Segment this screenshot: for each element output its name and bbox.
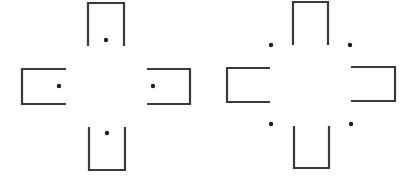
dot-top-left	[269, 43, 273, 47]
dot-right	[151, 84, 155, 88]
bottom-u	[294, 126, 329, 168]
dot-top-right	[348, 43, 352, 47]
dot-bottom-left	[269, 122, 273, 126]
dot-top	[104, 38, 108, 42]
dot-bottom-right	[349, 122, 353, 126]
diagram-canvas	[0, 0, 410, 183]
right-figure	[227, 2, 395, 168]
right-bracket	[351, 67, 395, 101]
left-figure	[22, 3, 190, 170]
left-bracket	[227, 68, 270, 102]
dot-bottom	[105, 131, 109, 135]
top-u	[293, 2, 328, 45]
dot-left	[57, 84, 61, 88]
